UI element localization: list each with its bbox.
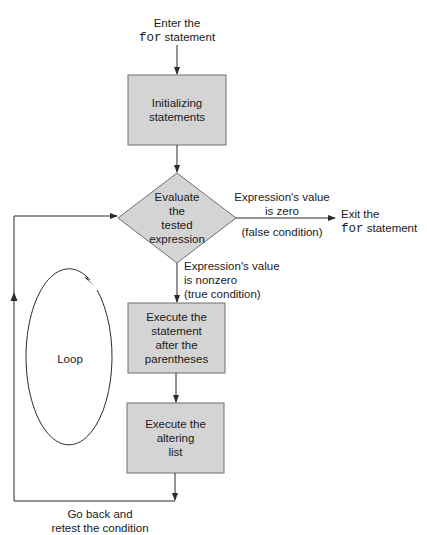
body-line2: statement <box>145 324 208 338</box>
altering-line3: list <box>145 445 206 459</box>
loop-back-label: Go back and retest the condition <box>40 507 160 535</box>
entry-label-line1: Enter the <box>127 16 227 30</box>
body-line3: after the <box>145 338 208 352</box>
entry-label-rest: statement <box>161 31 215 43</box>
entry-keyword: for <box>139 31 162 45</box>
loop-back-line2: retest the condition <box>40 521 160 535</box>
body-line4: parentheses <box>145 352 208 366</box>
true-branch-label: Expression's value is nonzero (true cond… <box>184 259 280 301</box>
entry-label-line2: for statement <box>127 30 227 45</box>
exit-label-rest: statement <box>364 222 418 234</box>
entry-label: Enter the for statement <box>127 16 227 45</box>
init-box-text: Initializing statements <box>128 75 226 145</box>
body-box-text: Execute the statement after the parenthe… <box>128 303 225 373</box>
decision-line3: tested <box>149 218 205 232</box>
loop-back-line1: Go back and <box>40 507 160 521</box>
loop-back-up-arrowhead <box>11 292 18 301</box>
false-condition-label: (false condition) <box>232 225 332 239</box>
false-branch-line2: is zero <box>232 204 332 218</box>
exit-label-line2: for statement <box>341 221 417 236</box>
altering-line1: Execute the <box>145 417 206 431</box>
decision-line4: expression <box>149 232 205 246</box>
body-line1: Execute the <box>145 310 208 324</box>
init-line1: Initializing <box>149 96 205 110</box>
altering-line2: altering <box>145 431 206 445</box>
true-branch-line2: is nonzero <box>184 273 280 287</box>
false-branch-label: Expression's value is zero <box>232 190 332 218</box>
false-branch-line1: Expression's value <box>232 190 332 204</box>
loop-label: Loop <box>45 352 95 366</box>
true-branch-line1: Expression's value <box>184 259 280 273</box>
decision-line2: the <box>149 204 205 218</box>
exit-label: Exit the for statement <box>341 207 417 236</box>
altering-box-text: Execute the altering list <box>127 403 224 473</box>
true-condition-text: (true condition) <box>184 287 280 301</box>
exit-keyword: for <box>341 222 364 236</box>
false-condition-text: (false condition) <box>232 225 332 239</box>
decision-line1: Evaluate <box>149 190 205 204</box>
exit-label-line1: Exit the <box>341 207 417 221</box>
decision-text: Evaluate the tested expression <box>127 188 227 248</box>
init-line2: statements <box>149 110 205 124</box>
loop-arrowhead <box>84 275 94 286</box>
